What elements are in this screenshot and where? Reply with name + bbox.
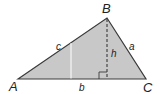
vertex-label-a: A <box>8 79 18 94</box>
side-label-a: a <box>129 41 135 52</box>
vertex-label-c: C <box>143 80 153 94</box>
height-label-h: h <box>111 48 117 59</box>
triangle-abc <box>18 18 146 79</box>
triangle-diagram: A B C c a b h <box>0 0 160 94</box>
side-label-c: c <box>56 41 61 52</box>
side-label-b: b <box>79 82 85 93</box>
vertex-label-b: B <box>102 1 111 16</box>
triangle-canvas: A B C c a b h <box>0 0 160 94</box>
